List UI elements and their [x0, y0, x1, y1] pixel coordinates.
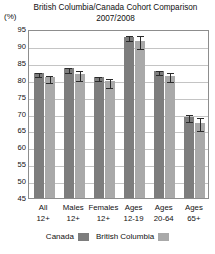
x-axis-category-line1: Ages — [149, 202, 179, 213]
legend-swatch-bc — [158, 233, 169, 241]
error-bar-stem — [80, 71, 81, 81]
error-bar-cap-lower — [156, 75, 163, 76]
x-axis-category-label: Males12+ — [58, 202, 88, 224]
y-tick-label: 60 — [18, 144, 26, 152]
chart-subtitle: 2007/2008 — [18, 13, 213, 24]
error-bar-cap-lower — [76, 81, 83, 82]
y-tick-label: 75 — [18, 94, 26, 102]
error-bar-cap-upper — [186, 115, 193, 116]
bar-british-columbia[interactable] — [75, 74, 85, 198]
x-axis-category-line1: All — [28, 202, 58, 213]
error-bar-cap-upper — [65, 68, 72, 69]
bar-canada[interactable] — [154, 71, 164, 198]
x-axis-category-line2: 20-64 — [149, 213, 179, 224]
error-bar-stem — [200, 118, 201, 131]
y-tick-label: 95 — [18, 26, 26, 34]
plot-area — [28, 30, 209, 199]
y-tick-label: 65 — [18, 127, 26, 135]
error-bar-cap-lower — [106, 88, 113, 89]
error-bar-cap-lower — [167, 82, 174, 83]
legend-label: British Columbia — [96, 232, 154, 241]
error-bar-cap-lower — [95, 81, 102, 82]
y-tick-label: 50 — [18, 178, 26, 186]
error-bar-cap-upper — [197, 118, 204, 119]
legend-swatch-canada — [78, 233, 89, 241]
y-tick-label: 90 — [18, 43, 26, 51]
bar-canada[interactable] — [64, 68, 74, 198]
error-bar-cap-lower — [65, 73, 72, 74]
bar-british-columbia[interactable] — [195, 123, 205, 198]
bar-group — [180, 31, 210, 198]
bar-group — [89, 31, 119, 198]
x-axis-category-label: Ages12-19 — [119, 202, 149, 224]
y-tick-label: 85 — [18, 60, 26, 68]
bar-canada[interactable] — [34, 73, 44, 198]
error-bar-cap-upper — [137, 36, 144, 37]
legend-entry[interactable]: British Columbia — [96, 232, 169, 241]
x-axis-category-line2: 12+ — [88, 213, 118, 224]
x-axis-category-label: Females12+ — [88, 202, 118, 224]
error-bar-cap-upper — [35, 73, 42, 74]
error-bar-stem — [50, 76, 51, 83]
y-tick-label: 45 — [18, 195, 26, 203]
y-axis-units-label: (%) — [4, 12, 16, 21]
chart-page: British Columbia/Canada Cohort Compariso… — [0, 0, 215, 254]
bar-british-columbia[interactable] — [105, 81, 115, 198]
x-axis-category-line2: 65+ — [179, 213, 209, 224]
x-axis-category-line1: Ages — [119, 202, 149, 213]
y-tick-label: 70 — [18, 111, 26, 119]
error-bar-cap-upper — [46, 76, 53, 77]
error-bar-cap-upper — [126, 36, 133, 37]
x-axis-category-label: Ages65+ — [179, 202, 209, 224]
error-bar-cap-lower — [35, 77, 42, 78]
error-bar-cap-lower — [197, 131, 204, 132]
x-axis-category-line1: Females — [88, 202, 118, 213]
bar-canada[interactable] — [94, 77, 104, 198]
error-bar-stem — [140, 36, 141, 48]
error-bar-cap-upper — [156, 71, 163, 72]
y-tick-label: 55 — [18, 161, 26, 169]
x-axis-category-line2: 12-19 — [119, 213, 149, 224]
chart-title: British Columbia/Canada Cohort Compariso… — [18, 2, 213, 13]
bar-group — [150, 31, 180, 198]
bar-canada[interactable] — [184, 117, 194, 198]
error-bar-cap-upper — [167, 73, 174, 74]
error-bar-cap-lower — [46, 83, 53, 84]
bar-british-columbia[interactable] — [45, 77, 55, 198]
bar-group — [59, 31, 89, 198]
legend-entry[interactable]: Canada — [46, 232, 89, 241]
x-axis-category-line2: 12+ — [28, 213, 58, 224]
x-axis-category-line2: 12+ — [58, 213, 88, 224]
x-axis-category-line1: Ages — [179, 202, 209, 213]
error-bar-cap-upper — [76, 71, 83, 72]
bar-group — [120, 31, 150, 198]
y-axis: 9590858075706560555045 — [2, 30, 26, 199]
error-bar-cap-upper — [106, 79, 113, 80]
y-tick-label: 80 — [18, 77, 26, 85]
x-axis-labels: All12+Males12+Females12+Ages12-19Ages20-… — [28, 202, 209, 230]
error-bar-cap-lower — [137, 49, 144, 50]
error-bar-cap-lower — [126, 41, 133, 42]
x-axis-category-label: All12+ — [28, 202, 58, 224]
bar-canada[interactable] — [124, 37, 134, 198]
bar-british-columbia[interactable] — [165, 76, 175, 198]
x-axis-category-label: Ages20-64 — [149, 202, 179, 224]
error-bar-cap-upper — [95, 77, 102, 78]
chart-title-block: British Columbia/Canada Cohort Compariso… — [18, 2, 213, 24]
bar-british-columbia[interactable] — [135, 41, 145, 199]
bars-layer — [29, 31, 208, 198]
error-bar-stem — [110, 79, 111, 88]
x-axis-category-line1: Males — [58, 202, 88, 213]
bar-group — [29, 31, 59, 198]
error-bar-stem — [170, 73, 171, 82]
chart-legend: CanadaBritish Columbia — [0, 232, 215, 241]
error-bar-stem — [189, 115, 190, 122]
legend-label: Canada — [46, 232, 74, 241]
error-bar-cap-lower — [186, 122, 193, 123]
